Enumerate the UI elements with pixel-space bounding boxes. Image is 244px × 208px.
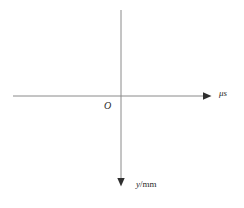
y-axis-arrowhead-icon — [117, 178, 124, 187]
coordinate-axes-figure: μs y/mm O — [0, 0, 244, 208]
x-axis-arrowhead-icon — [203, 92, 212, 100]
y-axis-label-unit: mm — [143, 179, 157, 189]
x-axis-label: μs — [219, 89, 227, 98]
origin-label: O — [104, 101, 111, 111]
y-axis-label: y/mm — [136, 180, 157, 189]
axes-drawing — [0, 0, 244, 208]
